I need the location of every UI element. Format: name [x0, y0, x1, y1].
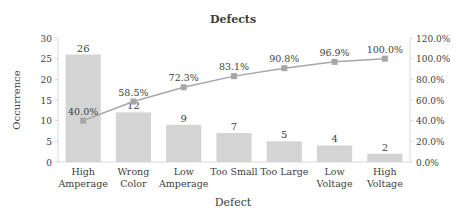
y-tick-label: 5	[46, 137, 52, 147]
y-tick-label: 0	[46, 158, 52, 168]
y-tick-label: 25	[41, 54, 53, 64]
bar-value-label: 26	[77, 43, 90, 54]
line-value-label: 90.8%	[269, 53, 299, 64]
x-tick-label: Too Large	[260, 166, 309, 177]
y2-tick-label: 120.0%	[416, 34, 451, 44]
line-marker	[181, 84, 187, 90]
line-value-label: 100.0%	[367, 44, 403, 55]
bar	[166, 125, 201, 162]
x-tick-label: Amperage	[158, 178, 209, 189]
y-tick-label: 20	[41, 75, 53, 85]
x-tick-label: Low	[174, 166, 194, 177]
bar-value-label: 4	[331, 133, 337, 144]
line-value-label: 40.0%	[68, 106, 98, 117]
line-value-label: 72.3%	[169, 72, 199, 83]
bar-value-label: 9	[181, 113, 187, 124]
bar-value-label: 2	[382, 142, 388, 153]
y2-tick-label: 0.0%	[416, 158, 439, 168]
y2-tick-label: 20.0%	[416, 137, 445, 147]
chart-title: Defects	[210, 13, 256, 26]
y2-tick-label: 60.0%	[416, 96, 445, 106]
y2-tick-label: 100.0%	[416, 54, 451, 64]
y-tick-label: 10	[41, 116, 53, 126]
x-tick-label: Too Small	[210, 166, 257, 177]
line-marker	[80, 118, 86, 124]
bar	[267, 141, 302, 162]
x-tick-label: High	[71, 166, 95, 177]
line-marker	[382, 56, 388, 62]
x-tick-label: Voltage	[316, 178, 353, 189]
bar	[367, 154, 402, 162]
line-marker	[231, 73, 237, 79]
line-marker	[130, 99, 136, 105]
bar	[317, 145, 352, 162]
x-tick-label: Wrong	[118, 166, 150, 177]
x-tick-label: Low	[324, 166, 344, 177]
y-tick-label: 15	[41, 96, 53, 106]
x-axis-title: Defect	[215, 196, 252, 209]
bar-value-label: 5	[281, 129, 287, 140]
x-tick-label: Voltage	[366, 178, 403, 189]
x-tick-label: Color	[120, 178, 147, 189]
y2-tick-label: 40.0%	[416, 116, 445, 126]
line-value-label: 58.5%	[118, 87, 148, 98]
y2-tick-label: 80.0%	[416, 75, 445, 85]
y-tick-label: 30	[41, 34, 53, 44]
plot-area: 0510152025300.0%20.0%40.0%60.0%80.0%100.…	[41, 34, 451, 190]
bar-value-label: 7	[231, 121, 237, 132]
bar	[216, 133, 251, 162]
line-marker	[332, 59, 338, 65]
line-value-label: 83.1%	[219, 61, 249, 72]
y-axis-title: Occurrence	[11, 70, 22, 129]
x-tick-label: Amperage	[57, 178, 108, 189]
line-value-label: 96.9%	[319, 47, 349, 58]
line-marker	[281, 65, 287, 71]
pareto-chart: Defects 0510152025300.0%20.0%40.0%60.0%8…	[0, 0, 460, 218]
x-tick-label: High	[373, 166, 397, 177]
bar	[116, 112, 151, 162]
